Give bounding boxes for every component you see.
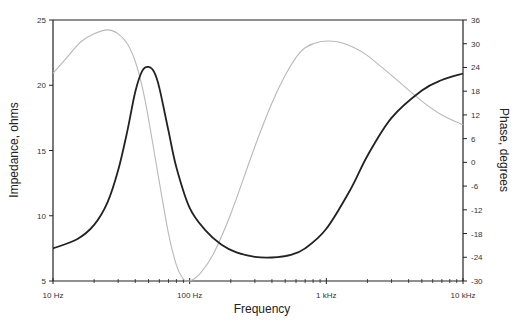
x-axis-title: Frequency bbox=[234, 302, 291, 316]
y-axis-phase: -30-24-18-12-6061218243036 bbox=[463, 16, 483, 286]
phase-curve bbox=[53, 30, 463, 282]
y2-tick-label: -18 bbox=[471, 230, 483, 239]
x-tick-label: 100 Hz bbox=[177, 291, 202, 300]
y-tick-label: 5 bbox=[42, 277, 47, 286]
y-axis-title-impedance: Impedance, ohms bbox=[7, 102, 21, 197]
y2-tick-label: -30 bbox=[471, 277, 483, 286]
x-tick-label: 10 kHz bbox=[451, 291, 476, 300]
x-tick-label: 1 kHz bbox=[316, 291, 336, 300]
y2-tick-label: 6 bbox=[471, 135, 476, 144]
x-tick-label: 10 Hz bbox=[43, 291, 64, 300]
y-tick-label: 20 bbox=[37, 81, 46, 90]
plot-frame bbox=[53, 20, 463, 281]
y-axis-title-phase: Phase, degrees bbox=[497, 108, 511, 192]
y-tick-label: 10 bbox=[37, 212, 46, 221]
y-tick-label: 15 bbox=[37, 147, 46, 156]
y2-tick-label: 0 bbox=[471, 158, 476, 167]
y-axis-impedance: 510152025 bbox=[37, 16, 53, 286]
impedance-curve bbox=[53, 67, 463, 258]
y2-tick-label: 18 bbox=[471, 87, 480, 96]
y2-tick-label: 30 bbox=[471, 40, 480, 49]
y2-tick-label: 24 bbox=[471, 63, 480, 72]
y2-tick-label: -24 bbox=[471, 253, 483, 262]
impedance-phase-chart: 10 Hz100 Hz1 kHz10 kHz 510152025 -30-24-… bbox=[0, 0, 519, 330]
y2-tick-label: -6 bbox=[471, 182, 479, 191]
y2-tick-label: 36 bbox=[471, 16, 480, 25]
y-tick-label: 25 bbox=[37, 16, 46, 25]
y2-tick-label: 12 bbox=[471, 111, 480, 120]
series-layer bbox=[53, 30, 463, 282]
y2-tick-label: -12 bbox=[471, 206, 483, 215]
